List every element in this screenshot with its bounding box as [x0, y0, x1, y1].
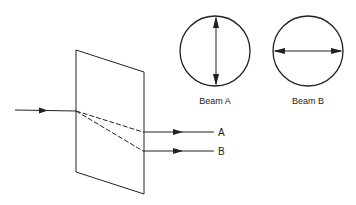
beam-a-polarization — [180, 16, 250, 86]
internal-path-a — [76, 111, 143, 132]
beam-b-label: Beam B — [292, 96, 324, 106]
arrowhead-icon — [173, 129, 183, 135]
output-label-a: A — [218, 127, 225, 138]
output-label-b: B — [218, 146, 225, 157]
arrowhead-icon — [173, 148, 183, 154]
diagram-canvas: A B Beam A Beam B — [0, 0, 356, 205]
beam-a-label: Beam A — [199, 96, 231, 106]
internal-path-b — [76, 111, 143, 151]
arrow-down-icon — [213, 74, 219, 86]
arrow-right-icon — [331, 48, 343, 54]
arrow-left-icon — [273, 48, 285, 54]
arrow-up-icon — [213, 16, 219, 28]
output-beam-b — [143, 148, 214, 154]
incoming-beam — [15, 108, 76, 114]
beam-b-polarization — [273, 16, 343, 86]
arrowhead-icon — [39, 108, 48, 114]
output-beam-a — [143, 129, 214, 135]
